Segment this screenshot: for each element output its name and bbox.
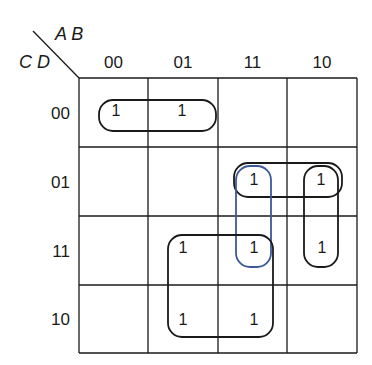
grid <box>79 78 357 353</box>
column-label: 00 <box>104 53 123 72</box>
cell-value: 1 <box>250 311 259 328</box>
cell-value: 1 <box>250 239 259 256</box>
cell-value: 1 <box>250 171 259 188</box>
column-labels: 00011110 <box>104 53 331 72</box>
groupings <box>99 100 342 337</box>
cells: 111111111 <box>112 102 327 328</box>
row-variables-label: C D <box>19 52 50 72</box>
row-label: 10 <box>51 310 70 329</box>
cell-value: 1 <box>178 102 187 119</box>
row-label: 01 <box>51 173 70 192</box>
cell-value: 1 <box>112 102 121 119</box>
karnaugh-map: A B C D 00011110 00011110 111111111 <box>0 0 372 365</box>
column-variables-label: A B <box>54 24 83 44</box>
row-label: 00 <box>51 104 70 123</box>
row-labels: 00011110 <box>51 104 70 330</box>
cell-value: 1 <box>318 239 327 256</box>
cell-value: 1 <box>179 239 188 256</box>
cell-value: 1 <box>317 171 326 188</box>
column-label: 01 <box>174 53 193 72</box>
column-label: 11 <box>244 53 262 72</box>
row-label: 11 <box>52 242 70 261</box>
column-label: 10 <box>313 53 332 72</box>
cell-value: 1 <box>179 311 188 328</box>
